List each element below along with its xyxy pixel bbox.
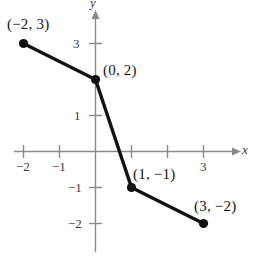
- x-tick-label-neg2: −2: [16, 159, 30, 175]
- data-point-marker: [127, 183, 136, 192]
- point-label-1-neg1: (1, −1): [133, 166, 175, 183]
- data-point-marker: [91, 75, 100, 84]
- x-axis-label: x: [242, 142, 248, 158]
- y-tick-label-neg2: −2: [68, 216, 82, 232]
- y-tick-label-1: 1: [74, 108, 81, 124]
- x-axis-arrowhead: [232, 148, 241, 156]
- x-tick-label-3: 3: [200, 159, 207, 175]
- y-axis-label: y: [90, 0, 96, 11]
- coordinate-plane: [0, 0, 253, 259]
- y-tick-label-3: 3: [73, 36, 80, 52]
- graph-figure: (−2, 3) (0, 2) (1, −1) (3, −2) −2 −1 3 3…: [0, 0, 253, 259]
- x-tick-label-neg1: −1: [52, 159, 66, 175]
- y-tick-label-neg1: −1: [68, 180, 82, 196]
- data-point-marker: [199, 219, 208, 228]
- point-label-neg2-3: (−2, 3): [7, 16, 49, 33]
- axis-lines: [14, 10, 241, 252]
- data-point-marker: [19, 39, 28, 48]
- point-label-0-2: (0, 2): [103, 62, 137, 79]
- y-axis-arrowhead: [92, 10, 100, 19]
- point-label-3-neg2: (3, −2): [194, 198, 236, 215]
